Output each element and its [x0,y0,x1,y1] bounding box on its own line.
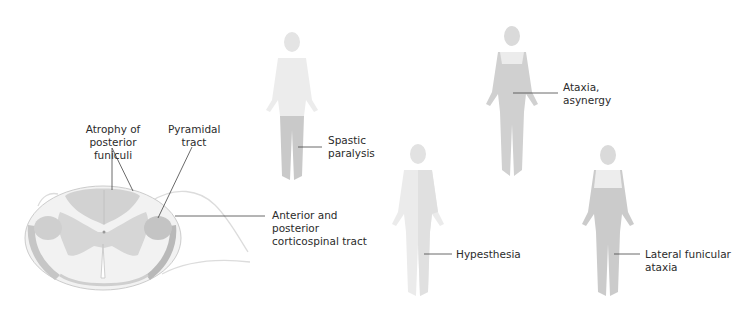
label-hypesthesia: Hypesthesia [456,248,521,261]
label-ataxia-asynergy: Ataxia, asynergy [563,81,611,107]
label-pyramidal-tract: Pyramidal tract [168,123,220,149]
label-spastic-paralysis: Spastic paralysis [328,134,375,160]
figure-spastic-paralysis [266,32,322,180]
label-posterior-funiculi: Atrophy of posterior funiculi [70,123,156,162]
label-corticospinal-tract: Anterior and posterior corticospinal tra… [272,209,367,248]
figure-hypesthesia [392,144,452,296]
label-lateral-funicular-ataxia: Lateral funicular ataxia [645,248,731,274]
figure-ataxia [486,26,558,176]
figure-lateral-funicular-ataxia [582,145,640,296]
